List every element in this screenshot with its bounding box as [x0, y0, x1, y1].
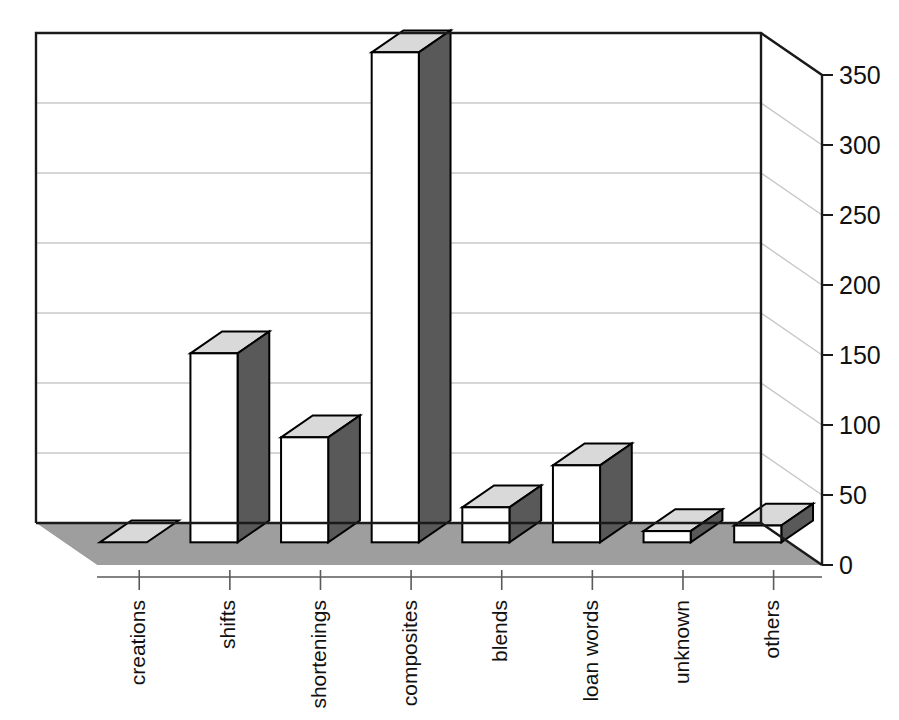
category-label: others: [760, 600, 783, 658]
value-tick-label: 0: [839, 551, 853, 579]
category-label: loan words: [579, 600, 602, 702]
category-label: blends: [488, 600, 511, 662]
value-tick-label: 150: [839, 341, 881, 369]
plot-side-wall: [761, 33, 822, 565]
value-tick-label: 250: [839, 201, 881, 229]
category-label: unknown: [670, 600, 693, 684]
bar-front-face: [644, 531, 691, 542]
bar-front-face: [553, 465, 600, 542]
value-tick-label: 350: [839, 61, 881, 89]
chart-container: 050100150200250300350 creationsshiftssho…: [0, 0, 899, 720]
column-chart-3d: 050100150200250300350 creationsshiftssho…: [0, 0, 899, 720]
value-tick-label: 100: [839, 411, 881, 439]
bar-side-face: [238, 331, 270, 542]
value-tick-label: 200: [839, 271, 881, 299]
bar-front-face: [462, 507, 509, 542]
bar-front-face: [190, 353, 237, 542]
bar-composites[interactable]: [372, 30, 451, 542]
bar-front-face: [281, 437, 328, 542]
bar-front-face: [734, 526, 781, 543]
bar-shifts[interactable]: [190, 331, 269, 542]
category-label: creations: [126, 600, 149, 685]
category-label: shortenings: [307, 600, 330, 709]
bar-loan-words[interactable]: [553, 443, 632, 542]
bar-side-face: [419, 30, 451, 542]
category-label: composites: [398, 600, 421, 706]
value-tick-label: 300: [839, 131, 881, 159]
category-label: shifts: [216, 600, 239, 649]
value-tick-label: 50: [839, 481, 867, 509]
bar-front-face: [372, 52, 419, 542]
